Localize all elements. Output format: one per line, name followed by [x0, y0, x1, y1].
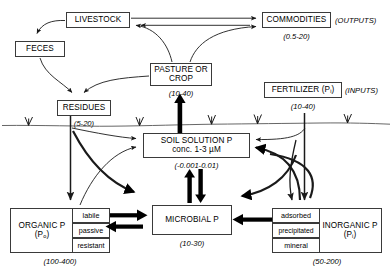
- flow-soil-solution-to-microbial: [195, 169, 206, 203]
- flow-microbial-to-soil-solution: [184, 169, 195, 203]
- flow-livestock-to-feces: [37, 20, 65, 33]
- flow-feces-to-residues: [40, 58, 72, 93]
- flow-organic-p-to-microbial: [110, 210, 148, 221]
- flow-microbial-to-organic-p: [106, 221, 144, 232]
- phosphorus-cycle-diagram: LIVESTOCK FECES COMMODITIES (OUTPUTS) (0…: [0, 0, 392, 278]
- grass-tuft-icon: [25, 114, 352, 126]
- soil-surface-line: [2, 123, 390, 126]
- flow-right-sweep-to-microbial: [242, 155, 296, 196]
- flow-arrow-layer: [0, 0, 392, 278]
- flow-pasture-to-residues: [84, 76, 149, 93]
- flow-fertilizer-to-soil-solution: [256, 128, 305, 140]
- flow-residues-to-soil-solution: [72, 128, 136, 139]
- flow-pasture-to-commodities: [190, 27, 256, 63]
- flow-pasture-to-livestock: [136, 25, 172, 62]
- flow-inorganic-p-to-microbial: [233, 214, 273, 225]
- flow-soilsolution-to-pasture-uptake: [174, 94, 185, 134]
- flow-residues-to-microbial: [73, 131, 134, 192]
